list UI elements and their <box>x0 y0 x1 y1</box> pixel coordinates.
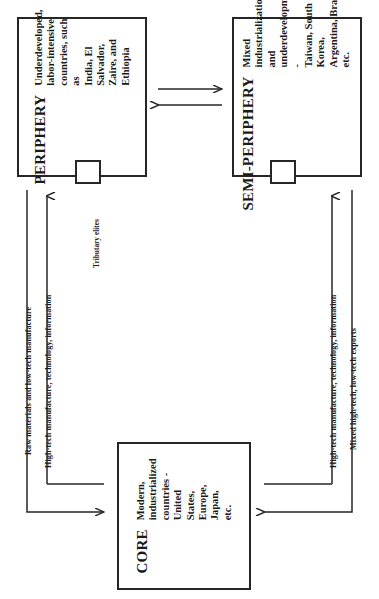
box-semi-periphery[interactable]: SEMI-PERIPHERY Mixed industrialization a… <box>232 17 362 177</box>
diagram-canvas: PERIPHERY Underdeveloped, labor-intensiv… <box>0 0 379 599</box>
box-core-content: CORE Modern, industrialized countries - … <box>135 459 234 574</box>
box-core-body: Modern, industrialized countries - Unite… <box>135 459 234 521</box>
label-raw-materials: Raw materials and low-tech manufacture <box>24 307 33 455</box>
node-semi-periphery[interactable] <box>270 160 296 184</box>
connector-semiperiphery-to-core <box>264 196 332 484</box>
box-periphery[interactable]: PERIPHERY Underdeveloped, labor-intensiv… <box>17 17 147 177</box>
box-semi-periphery-title: SEMI-PERIPHERY <box>241 77 257 211</box>
node-periphery-tributary-elites[interactable] <box>75 160 101 184</box>
box-periphery-body: Underdeveloped, labor-intensive countrie… <box>33 10 132 86</box>
label-tributary-elites: Tributary elites <box>92 219 101 268</box>
connector-core-to-semiperiphery <box>264 190 352 512</box>
box-periphery-title: PERIPHERY <box>33 95 49 185</box>
box-semi-periphery-body: Mixed industrialization and underdevelop… <box>241 0 352 68</box>
box-semi-periphery-content: SEMI-PERIPHERY Mixed industrialization a… <box>241 0 352 210</box>
box-periphery-content: PERIPHERY Underdeveloped, labor-intensiv… <box>33 10 132 185</box>
box-core-title: CORE <box>135 529 151 573</box>
label-mixed-exports: Mixed high-tech, low-tech exports <box>349 328 358 450</box>
label-high-tech-right: High-tech manufacture, technology, infor… <box>329 295 338 468</box>
label-high-tech-left: High-tech manufacture, technology, infor… <box>44 295 53 468</box>
box-core[interactable]: CORE Modern, industrialized countries - … <box>117 442 251 590</box>
